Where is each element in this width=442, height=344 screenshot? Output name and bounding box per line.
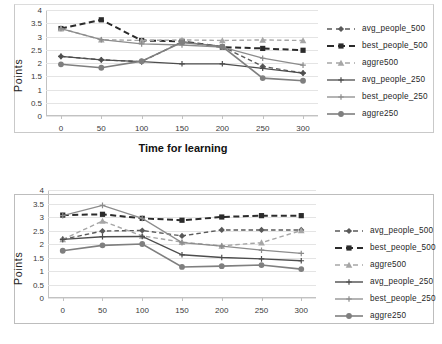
x-tick-label: 250 <box>255 306 268 315</box>
series-marker <box>99 218 106 224</box>
series-marker <box>298 266 304 272</box>
series-marker <box>259 213 264 218</box>
legend-label: aggre500 <box>370 260 406 269</box>
legend-item: best_people_250 <box>334 290 436 307</box>
x-tickmark <box>303 116 304 119</box>
y-tick-label: 1.5 <box>31 72 42 81</box>
x-axis-ticks-top: 050100150200250300 <box>46 122 318 136</box>
x-tickmark <box>222 298 223 301</box>
legend-item: aggre500 <box>334 256 436 273</box>
legend-swatch-plus-icon <box>334 293 364 305</box>
series-marker <box>299 213 304 218</box>
x-tickmark <box>61 116 62 119</box>
legend-swatch-square-icon <box>326 40 356 52</box>
y-tick-label: 0 <box>40 294 44 303</box>
series-marker <box>139 58 145 64</box>
legend-label: avg_people_250 <box>362 75 425 84</box>
y-tick-label: 1.5 <box>33 253 44 262</box>
legend-top: avg_people_500best_people_500aggre500avg… <box>326 20 428 122</box>
y-tick-label: 3.5 <box>33 199 44 208</box>
x-tick-label: 50 <box>98 306 107 315</box>
series-marker <box>258 227 264 233</box>
series-marker <box>99 228 105 234</box>
legend-item: avg_people_500 <box>334 222 436 239</box>
legend-swatch-diamond-icon <box>334 225 364 237</box>
legend-swatch-plus-icon <box>334 276 364 288</box>
legend-swatch-circle-icon <box>334 310 364 322</box>
x-axis-ticks-bottom: 050100150200250300 <box>48 304 316 318</box>
legend-label: aggre500 <box>362 58 398 67</box>
x-tickmark <box>263 116 264 119</box>
x-tick-label: 250 <box>256 124 269 133</box>
legend-swatch-diamond-icon <box>326 23 356 35</box>
legend-label: avg_people_250 <box>370 277 433 286</box>
series-marker <box>100 242 106 248</box>
series-marker <box>58 54 64 60</box>
legend-label: best_people_500 <box>370 243 436 252</box>
series-marker <box>219 227 225 233</box>
x-tick-label: 100 <box>136 306 149 315</box>
series-marker <box>179 233 185 239</box>
series-marker <box>58 61 64 67</box>
y-tick-label: 3 <box>40 213 44 222</box>
legend-label: aggre250 <box>362 109 398 118</box>
plot-area-top <box>46 10 318 116</box>
legend-label: best_people_500 <box>362 41 428 50</box>
y-tick-label: 3 <box>38 32 42 41</box>
x-tickmark <box>222 116 223 119</box>
x-tickmark <box>262 298 263 301</box>
x-tick-label: 150 <box>175 306 188 315</box>
legend-item: avg_people_250 <box>334 273 436 290</box>
legend-item: best_people_500 <box>326 37 428 54</box>
legend-label: aggre250 <box>370 311 406 320</box>
y-tick-label: 0.5 <box>31 98 42 107</box>
series-marker <box>300 70 306 76</box>
legend-label: best_people_250 <box>370 294 436 303</box>
legend-label: best_people_250 <box>362 92 428 101</box>
x-tick-label: 150 <box>175 124 188 133</box>
legend-item: aggre250 <box>334 307 436 324</box>
y-tick-label: 1 <box>38 85 42 94</box>
legend-swatch-plus-icon <box>326 91 356 103</box>
y-tick-label: 2.5 <box>31 45 42 54</box>
y-tick-label: 0.5 <box>33 280 44 289</box>
y-tick-label: 3.5 <box>31 19 42 28</box>
series-marker <box>260 75 266 81</box>
x-tick-label: 200 <box>216 124 229 133</box>
legend-swatch-circle-icon <box>326 108 356 120</box>
series-marker <box>260 46 265 51</box>
series-marker <box>179 264 185 270</box>
series-marker <box>298 258 304 264</box>
series-marker <box>298 251 304 257</box>
x-tickmark <box>301 298 302 301</box>
x-tickmark <box>101 116 102 119</box>
y-axis-ticks-bottom: 00.511.522.533.54 <box>20 190 44 298</box>
legend-swatch-triangle-icon <box>326 57 356 69</box>
series-marker <box>98 65 104 71</box>
series-marker <box>260 55 266 61</box>
y-tick-label: 0 <box>38 112 42 121</box>
series-marker <box>219 263 225 269</box>
series-marker <box>100 212 105 217</box>
x-axis-title-top: Time for learning <box>58 142 308 154</box>
y-tick-label: 4 <box>38 6 42 15</box>
y-tick-label: 1 <box>40 267 44 276</box>
series-marker <box>259 256 265 262</box>
series-marker <box>219 255 225 261</box>
series-marker <box>100 203 106 209</box>
series-layer-bottom <box>48 190 316 298</box>
legend-item: aggre250 <box>326 105 428 122</box>
series-marker <box>219 214 224 219</box>
x-tick-label: 50 <box>97 124 106 133</box>
legend-swatch-square-icon <box>334 242 364 254</box>
series-marker <box>300 62 306 68</box>
series-marker <box>179 218 184 223</box>
legend-bottom: avg_people_500best_people_500aggre500avg… <box>334 222 436 324</box>
series-marker <box>100 234 106 240</box>
legend-label: avg_people_500 <box>362 24 425 33</box>
x-tick-label: 100 <box>135 124 148 133</box>
y-tick-label: 2 <box>38 59 42 68</box>
series-marker <box>99 17 104 22</box>
series-marker <box>179 61 185 67</box>
y-axis-ticks-top: 00.511.522.533.54 <box>18 10 42 116</box>
